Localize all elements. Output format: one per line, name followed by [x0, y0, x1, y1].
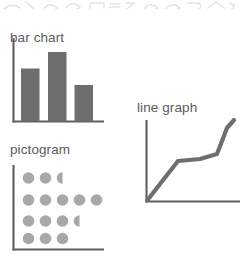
- pictogram-symbol: [23, 215, 35, 227]
- line-graph-panel: line graph: [128, 96, 246, 211]
- pictogram-plot: [0, 140, 115, 263]
- infographic-page: bar chart: [0, 0, 246, 263]
- pictogram-symbol-half: [74, 215, 80, 227]
- bar-2: [48, 52, 67, 122]
- bar-3: [75, 85, 94, 122]
- pictogram-symbol: [40, 233, 52, 245]
- pictogram-symbol: [57, 194, 69, 206]
- bar-1: [21, 69, 40, 122]
- pictogram-symbol: [40, 172, 52, 184]
- pictogram-symbol: [57, 233, 69, 245]
- pictogram-panel: pictogram: [0, 140, 115, 263]
- pictogram-symbol: [91, 194, 103, 206]
- pictogram-symbol: [23, 194, 35, 206]
- pictogram-symbol-half: [57, 172, 63, 184]
- pictogram-symbol: [40, 215, 52, 227]
- line-graph-series: [148, 120, 235, 200]
- pictogram-symbol: [40, 194, 52, 206]
- pictogram-symbol: [74, 194, 86, 206]
- bar-chart-label: bar chart: [10, 31, 64, 45]
- pictogram-symbol: [23, 233, 35, 245]
- pictogram-symbol: [57, 215, 69, 227]
- bar-chart-panel: bar chart: [0, 14, 115, 129]
- line-graph-label: line graph: [137, 101, 197, 115]
- pictogram-symbol: [23, 172, 35, 184]
- pictogram-label: pictogram: [10, 143, 70, 157]
